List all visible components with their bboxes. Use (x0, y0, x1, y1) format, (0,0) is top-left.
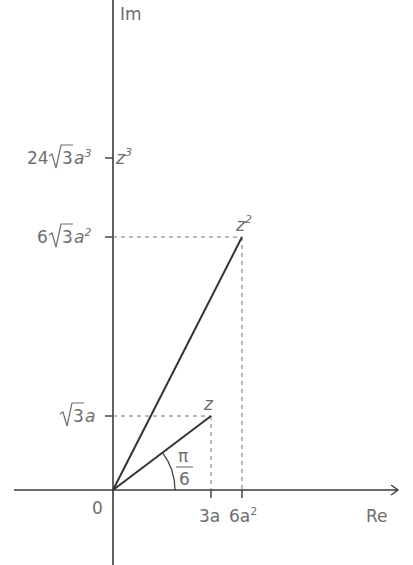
y-tick-0-root: 3 (73, 406, 84, 426)
x-tick-6a2-base: 6a (229, 506, 250, 526)
origin-label: 0 (92, 498, 103, 518)
y-tick-1-root: 3 (62, 227, 73, 247)
y-tick-2-sup: 3 (84, 147, 91, 160)
angle-denominator: 6 (179, 469, 190, 489)
y-tick-2-root: 3 (62, 148, 73, 168)
vector-z (113, 416, 211, 490)
x-tick-label-6a2: 6a2 (229, 505, 257, 526)
angle-numerator: π (178, 446, 188, 466)
y-tick-1-coef: 6 (37, 227, 48, 247)
y-tick-1-sup: 2 (84, 226, 91, 239)
z3-sup: 3 (125, 146, 132, 159)
angle-label: π 6 (176, 446, 193, 489)
x-tick-label-3a: 3a (199, 506, 220, 526)
angle-arc (163, 453, 176, 490)
z2-label: z2 (235, 213, 252, 235)
complex-plane-diagram: Im Re 0 z z2 z3 3a 6a2 3 a 6 3 a2 24 3 a… (0, 0, 413, 565)
y-tick-1-var: a (74, 227, 84, 247)
z2-sup: 2 (245, 213, 252, 226)
z3-label: z3 (115, 146, 132, 168)
y-tick-0-var: a (85, 406, 95, 426)
z-label: z (203, 394, 214, 414)
y-tick-label-sqrt3a: 3 a (60, 403, 95, 426)
y-tick-label-6sqrt3a2: 6 3 a2 (37, 224, 91, 247)
y-tick-2-coef: 24 (27, 148, 49, 168)
x-tick-6a2-sup: 2 (250, 505, 257, 518)
imag-axis-label: Im (120, 4, 142, 24)
svg-text:a2: a2 (74, 226, 91, 247)
real-axis-label: Re (366, 506, 388, 526)
svg-text:a3: a3 (74, 147, 91, 168)
y-tick-label-24sqrt3a3: 24 3 a3 (27, 145, 91, 168)
y-tick-2-var: a (74, 148, 84, 168)
